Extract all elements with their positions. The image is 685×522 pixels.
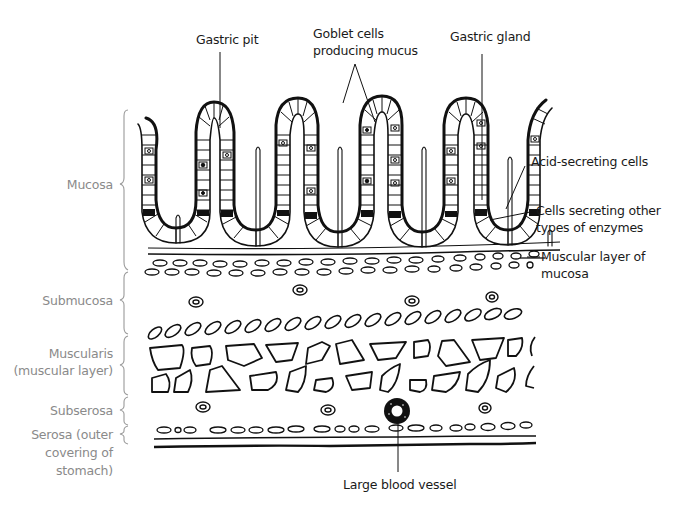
layer-label-mucosa: Mucosa — [67, 176, 113, 193]
subserosa-vessels — [196, 402, 491, 415]
label-gastric-gland: Gastric gland — [450, 29, 531, 44]
layer-label-subserosa: Subserosa — [50, 402, 113, 419]
layer-label-muscularis-line1: Muscularis — [49, 345, 113, 362]
brace-serosa — [120, 426, 128, 444]
brace-mucosa — [120, 110, 128, 270]
stomach-wall-diagram: Gastric pit Goblet cells producing mucus… — [0, 0, 685, 522]
layer-label-serosa-line2: covering of — [45, 444, 113, 461]
label-acid-secreting-cells: Acid-secreting cells — [531, 154, 648, 169]
label-gastric-pit: Gastric pit — [196, 32, 258, 47]
muscularis-muscle-blocks — [150, 337, 535, 392]
layer-label-serosa-line3: stomach) — [56, 462, 113, 479]
layer-label-muscularis-line2: (muscular layer) — [13, 362, 113, 379]
layer-braces — [120, 110, 128, 444]
label-other-enzymes-line1: Cells secreting other — [536, 203, 661, 218]
label-muscular-layer-line2: mucosa — [541, 266, 589, 281]
leader-goblet-cells — [343, 64, 375, 122]
layer-label-serosa-line1: Serosa (outer — [31, 426, 113, 443]
label-goblet-cells-line2: producing mucus — [313, 43, 418, 58]
muscularis-oblique-fibers — [146, 306, 523, 341]
label-goblet-cells-line1: Goblet cells — [313, 26, 384, 41]
mucosa-epithelium — [138, 96, 552, 247]
submucosa-vessels — [189, 285, 498, 307]
serosa-layer — [154, 422, 536, 447]
large-blood-vessel — [384, 398, 410, 424]
leader-acid-secreting — [506, 166, 525, 209]
brace-muscularis — [120, 336, 128, 395]
label-large-blood-vessel: Large blood vessel — [343, 477, 456, 492]
label-muscular-layer-line1: Muscular layer of — [541, 249, 645, 264]
brace-submucosa — [120, 272, 128, 334]
brace-subserosa — [120, 397, 128, 425]
layer-label-submucosa: Submucosa — [42, 292, 113, 309]
label-other-enzymes-line2: types of enzymes — [536, 220, 643, 235]
